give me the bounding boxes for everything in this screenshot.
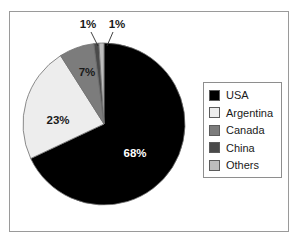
legend-item-argentina[interactable]: Argentina <box>209 105 276 121</box>
pie-chart-figure: 68% 23% 7% 1% 1% USA Argentina Canada Ch… <box>0 0 302 244</box>
slice-label-argentina: 23% <box>46 114 69 126</box>
legend-label-others: Others <box>226 159 259 171</box>
legend-swatch-usa <box>209 90 220 101</box>
legend-item-china[interactable]: China <box>209 140 276 156</box>
legend-label-canada: Canada <box>226 124 265 136</box>
legend-label-argentina: Argentina <box>226 107 273 119</box>
slice-label-others: 1% <box>109 18 126 30</box>
slice-label-china: 1% <box>80 18 97 30</box>
legend-swatch-canada <box>209 125 220 136</box>
slice-label-usa: 68% <box>123 147 146 159</box>
legend-swatch-china <box>209 142 220 153</box>
legend-item-others[interactable]: Others <box>209 157 276 173</box>
legend-swatch-argentina <box>209 107 220 118</box>
legend-label-china: China <box>226 142 255 154</box>
chart-legend: USA Argentina Canada China Others <box>203 82 282 178</box>
legend-item-canada[interactable]: Canada <box>209 122 276 138</box>
legend-swatch-others <box>209 160 220 171</box>
legend-item-usa[interactable]: USA <box>209 87 276 103</box>
legend-label-usa: USA <box>226 89 249 101</box>
slice-label-canada: 7% <box>79 66 96 78</box>
